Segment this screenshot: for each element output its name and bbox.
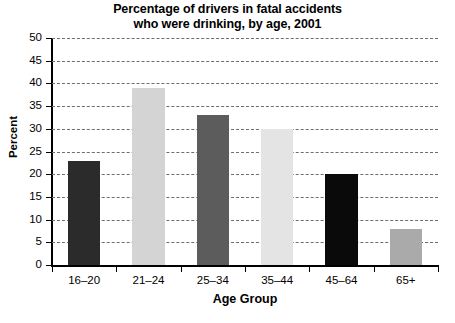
x-axis-tick [181,266,182,272]
y-axis-tick [46,197,52,198]
axis-ticks: 0510152025303540455016–2021–2425–3435–44… [52,38,438,265]
x-axis-tick [116,266,117,272]
y-axis-tick-label: 50 [10,32,42,44]
y-axis-tick [46,129,52,130]
x-axis-tick [52,266,53,272]
x-axis-tick-label: 25–34 [181,274,245,286]
y-axis-tick [46,152,52,153]
plot-area: 0510152025303540455016–2021–2425–3435–44… [52,38,438,265]
y-axis-tick-label: 25 [10,146,42,158]
y-axis-title: Percent [7,102,19,172]
chart-title-line-2: who were drinking, by age, 2001 [0,17,455,32]
y-axis-tick [46,174,52,175]
chart-title: Percentage of drivers in fatal accidents… [0,2,455,32]
y-axis-tick [46,106,52,107]
x-axis-tick-label: 21–24 [116,274,180,286]
y-axis-tick-label: 40 [10,77,42,89]
chart-title-line-1: Percentage of drivers in fatal accidents [0,2,455,17]
x-axis-tick-label: 65+ [374,274,438,286]
y-axis-tick [46,83,52,84]
x-axis-tick [374,266,375,272]
y-axis-tick-label: 20 [10,168,42,180]
y-axis-tick-label: 35 [10,100,42,112]
x-axis-tick [438,266,439,272]
x-axis-title: Age Group [52,292,438,306]
y-axis-tick-label: 0 [10,259,42,271]
y-axis-tick [46,61,52,62]
y-axis-tick [46,38,52,39]
y-axis-tick-label: 5 [10,236,42,248]
y-axis-tick-label: 45 [10,55,42,67]
x-axis-tick-label: 35–44 [245,274,309,286]
y-axis-tick-label: 10 [10,214,42,226]
y-axis-tick [46,242,52,243]
y-axis-tick-label: 30 [10,123,42,135]
x-axis-tick-label: 45–64 [309,274,373,286]
bar-chart: Percentage of drivers in fatal accidents… [0,0,455,323]
x-axis-tick-label: 16–20 [52,274,116,286]
y-axis-tick-label: 15 [10,191,42,203]
y-axis-tick [46,220,52,221]
x-axis-tick [245,266,246,272]
x-axis-tick [309,266,310,272]
